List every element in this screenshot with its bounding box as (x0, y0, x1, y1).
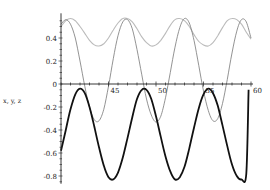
x-tick-label: 60 (253, 87, 262, 95)
x-tick-label: 50 (158, 87, 167, 95)
y-tick-label: -0.8 (44, 173, 58, 181)
y-tick-label: -0.2 (44, 104, 58, 112)
y-ticks: -0.8-0.6-0.4-0.200.20.4 (44, 21, 63, 182)
x-tick-label: 55 (206, 87, 215, 95)
y-axis-label: x, y, z (3, 97, 22, 105)
x-ticks: 45505560 (61, 82, 262, 96)
line-chart: 45505560 -0.8-0.6-0.4-0.200.20.4 x, y, z (0, 0, 270, 190)
y-tick-label: 0.2 (46, 58, 57, 66)
y-tick-label: 0 (53, 81, 57, 89)
axes-layer: 45505560 -0.8-0.6-0.4-0.200.20.4 (44, 13, 262, 183)
series-x-line (61, 89, 249, 183)
x-tick-label: 45 (111, 87, 120, 95)
series-z-line (61, 18, 251, 46)
y-tick-label: -0.6 (44, 150, 58, 158)
y-tick-label: -0.4 (44, 127, 58, 135)
series-layer (61, 18, 251, 182)
y-tick-label: 0.4 (46, 35, 58, 43)
